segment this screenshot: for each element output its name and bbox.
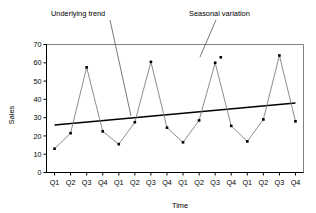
annotation-label: Seasonal variation xyxy=(189,9,250,18)
data-point-marker xyxy=(214,61,217,64)
data-point-marker xyxy=(85,66,88,69)
data-point-marker xyxy=(246,140,249,143)
data-point-marker xyxy=(262,118,265,121)
data-point-marker xyxy=(294,120,297,123)
data-point-marker xyxy=(219,56,222,59)
x-tick-label: Q1 xyxy=(242,178,252,187)
x-tick-label: Q1 xyxy=(178,178,188,187)
data-point-marker xyxy=(150,61,153,64)
chart-background xyxy=(0,0,316,213)
data-point-marker xyxy=(101,130,104,133)
y-tick-label: 10 xyxy=(34,150,42,159)
data-point-marker xyxy=(182,141,185,144)
y-tick-label: 40 xyxy=(34,95,42,104)
y-tick-label: 60 xyxy=(34,58,42,67)
x-tick-label: Q1 xyxy=(114,178,124,187)
data-point-marker xyxy=(69,132,72,135)
x-tick-label: Q3 xyxy=(82,178,92,187)
x-tick-label: Q2 xyxy=(194,178,204,187)
data-point-marker xyxy=(230,125,233,128)
y-axis-title: Sales xyxy=(7,105,16,124)
data-point-marker xyxy=(166,126,169,129)
x-tick-label: Q3 xyxy=(146,178,156,187)
y-tick-label: 50 xyxy=(34,77,42,86)
chart-container: 010203040506070 Q1Q2Q3Q4Q1Q2Q3Q4Q1Q2Q3Q4… xyxy=(0,0,316,213)
x-tick-label: Q4 xyxy=(291,178,301,187)
x-tick-label: Q2 xyxy=(66,178,76,187)
y-tick-label: 20 xyxy=(34,132,42,141)
data-point-marker xyxy=(278,54,281,57)
y-tick-label: 30 xyxy=(34,113,42,122)
data-point-marker xyxy=(198,119,201,122)
data-point-marker xyxy=(134,121,137,124)
x-axis-title: Time xyxy=(172,201,188,210)
x-tick-label: Q4 xyxy=(226,178,236,187)
x-tick-label: Q2 xyxy=(259,178,269,187)
x-tick-label: Q3 xyxy=(275,178,285,187)
x-tick-label: Q3 xyxy=(210,178,220,187)
y-tick-label: 70 xyxy=(34,40,42,49)
y-tick-label: 0 xyxy=(38,168,42,177)
annotation-label: Underlying trend xyxy=(51,9,105,18)
x-tick-label: Q4 xyxy=(162,178,172,187)
data-point-marker xyxy=(117,143,120,146)
x-tick-label: Q4 xyxy=(98,178,108,187)
x-tick-label: Q2 xyxy=(130,178,140,187)
sales-time-line-chart: 010203040506070 Q1Q2Q3Q4Q1Q2Q3Q4Q1Q2Q3Q4… xyxy=(0,0,316,213)
x-tick-label: Q1 xyxy=(50,178,60,187)
data-point-marker xyxy=(53,147,56,150)
